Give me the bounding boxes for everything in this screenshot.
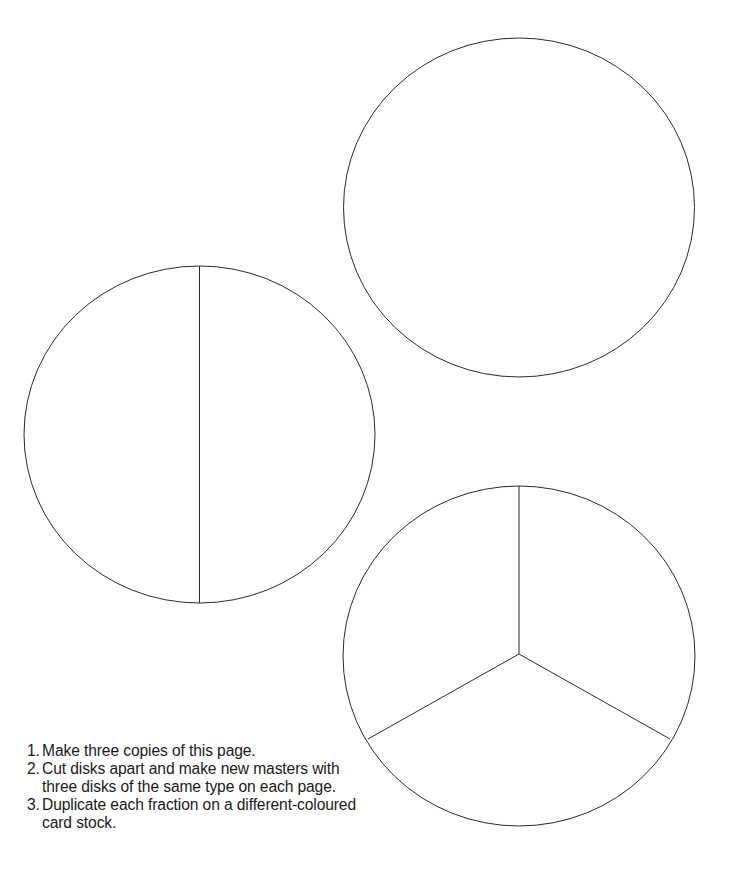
instruction-text: Make three copies of this page. xyxy=(42,742,256,759)
instruction-item: 3. Duplicate each fraction on a differen… xyxy=(27,796,367,832)
whole-disk-outline xyxy=(344,38,695,377)
instructions-list: 1. Make three copies of this page. 2. Cu… xyxy=(27,742,367,832)
thirds-divider-right xyxy=(519,654,670,739)
halves-disk xyxy=(24,266,375,603)
thirds-disk xyxy=(343,486,695,826)
instruction-number: 2. xyxy=(27,760,40,778)
instruction-text: Duplicate each fraction on a different-c… xyxy=(42,796,356,831)
instruction-item: 2. Cut disks apart and make new masters … xyxy=(27,760,367,796)
instruction-number: 1. xyxy=(27,742,40,760)
thirds-divider-left xyxy=(368,654,519,739)
instruction-item: 1. Make three copies of this page. xyxy=(27,742,367,760)
instruction-number: 3. xyxy=(27,796,40,814)
whole-disk xyxy=(344,38,695,377)
instruction-text: Cut disks apart and make new masters wit… xyxy=(42,760,340,795)
